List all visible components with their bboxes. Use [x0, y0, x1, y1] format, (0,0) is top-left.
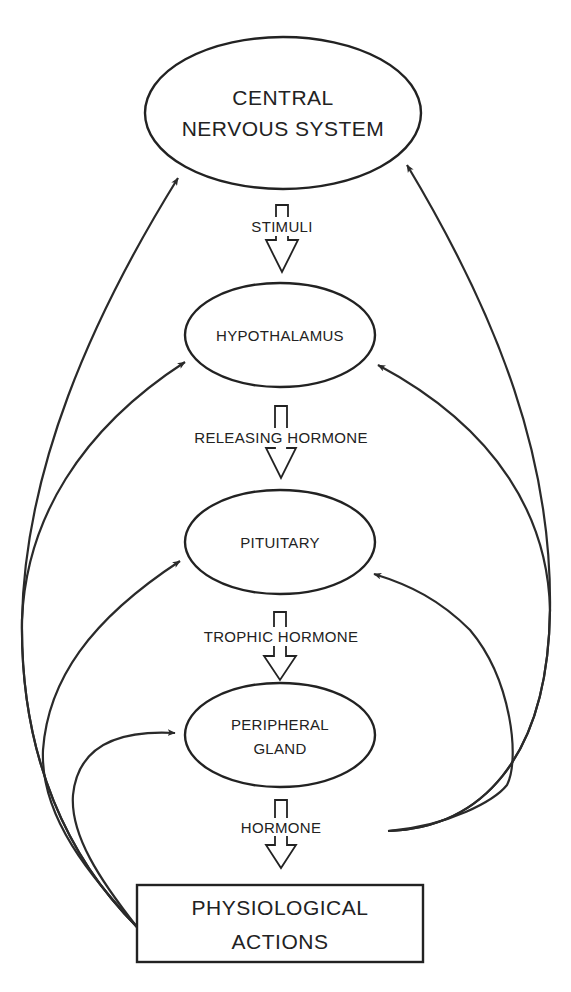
feedback-arrow-hormone-to-cns — [388, 165, 550, 831]
left-feedback-arrows — [22, 178, 185, 927]
feedback-arrow-actions-to-pituitary — [43, 561, 180, 927]
endocrine-feedback-diagram: CENTRAL NERVOUS SYSTEM STIMULI HYPOTHALA… — [0, 0, 571, 992]
physiological-actions-label-line2: ACTIONS — [232, 930, 329, 953]
open-down-arrow-icon — [266, 205, 298, 272]
node-central-nervous-system: CENTRAL NERVOUS SYSTEM — [145, 37, 421, 189]
node-hypothalamus: HYPOTHALAMUS — [185, 283, 375, 387]
stimuli-label: STIMULI — [251, 218, 312, 235]
flow-arrow-hormone: HORMONE — [228, 800, 334, 868]
cns-label-line2: NERVOUS SYSTEM — [182, 117, 385, 140]
hypothalamus-label: HYPOTHALAMUS — [216, 327, 344, 344]
feedback-arrow-actions-to-hypothalamus — [22, 362, 185, 927]
flow-arrow-stimuli: STIMULI — [240, 205, 322, 272]
cns-ellipse — [145, 37, 421, 189]
pituitary-label: PITUITARY — [240, 534, 320, 551]
physiological-actions-label-line1: PHYSIOLOGICAL — [192, 896, 369, 919]
right-feedback-arrows — [374, 165, 550, 831]
feedback-arrow-actions-to-cns — [22, 178, 178, 927]
releasing-hormone-label: RELEASING HORMONE — [194, 429, 367, 446]
feedback-arrow-hormone-to-pituitary — [374, 574, 513, 831]
node-peripheral-gland: PERIPHERAL GLAND — [185, 683, 375, 787]
cns-label-line1: CENTRAL — [232, 86, 334, 109]
node-pituitary: PITUITARY — [185, 490, 375, 594]
node-physiological-actions: PHYSIOLOGICAL ACTIONS — [137, 885, 423, 962]
peripheral-gland-label-line2: GLAND — [253, 740, 306, 757]
flow-arrow-releasing-hormone: RELEASING HORMONE — [176, 406, 386, 478]
peripheral-gland-label-line1: PERIPHERAL — [231, 716, 329, 733]
trophic-hormone-label: TROPHIC HORMONE — [204, 628, 359, 645]
hormone-label: HORMONE — [241, 819, 321, 836]
flow-arrow-trophic-hormone: TROPHIC HORMONE — [182, 612, 380, 680]
feedback-arrow-hormone-to-hypothalamus — [378, 365, 550, 831]
peripheral-gland-ellipse — [185, 683, 375, 787]
